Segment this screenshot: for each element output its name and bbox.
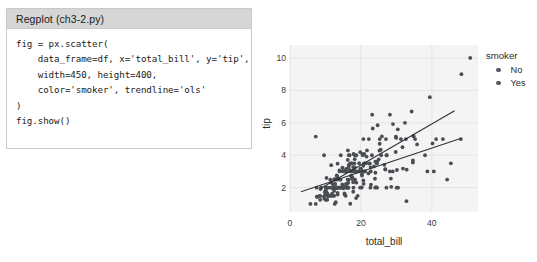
legend-marker-icon — [496, 81, 501, 86]
code-line: width=450, height=400, — [16, 67, 251, 82]
y-tick-label: 2 — [260, 183, 286, 193]
code-caption-bar: Regplot (ch3-2.py) — [7, 9, 251, 29]
legend-marker-icon — [496, 68, 501, 73]
code-line: color='smoker', trendline='ols' — [16, 82, 251, 97]
code-caption-label: Regplot (ch3-2.py) — [16, 13, 104, 25]
code-line: fig.show() — [16, 113, 251, 128]
y-axis-title: tip — [261, 104, 272, 144]
code-line: fig = px.scatter( — [16, 36, 251, 51]
x-axis-title: total_bill — [290, 236, 478, 247]
code-line: data_frame=df, x='total_bill', y='tip', — [16, 51, 251, 66]
legend-item-no[interactable]: No — [496, 65, 537, 75]
legend-item-yes[interactable]: Yes — [496, 78, 537, 88]
legend-item-label: Yes — [511, 78, 526, 88]
code-listing-panel: Regplot (ch3-2.py) fig = px.scatter( dat… — [6, 8, 252, 149]
code-body: fig = px.scatter( data_frame=df, x='tota… — [7, 29, 251, 128]
legend-title: smoker — [486, 50, 537, 61]
legend: smoker No Yes — [486, 50, 537, 91]
y-tick-label: 10 — [260, 53, 286, 63]
y-tick-label: 8 — [260, 85, 286, 95]
code-line: ) — [16, 98, 251, 113]
x-tick-label: 40 — [419, 218, 445, 228]
x-tick-label: 0 — [277, 218, 303, 228]
y-tick-label: 4 — [260, 150, 286, 160]
plot-data-layer — [290, 45, 478, 212]
x-tick-label: 20 — [348, 218, 374, 228]
legend-item-label: No — [511, 65, 523, 75]
scatter-plot-figure: 246810 02040 tip total_bill smoker No Ye… — [258, 40, 530, 255]
